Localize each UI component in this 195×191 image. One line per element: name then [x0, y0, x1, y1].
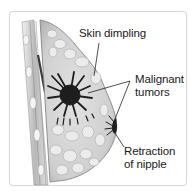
label-malignant-tumors: Malignant tumors — [135, 73, 184, 99]
label-retraction-line1: Retraction — [124, 145, 175, 158]
label-retraction-line2: of nipple — [124, 158, 175, 171]
leader-malignant-nipple — [113, 81, 130, 124]
label-retraction-of-nipple: Retraction of nipple — [124, 145, 175, 171]
label-malignant-line2: tumors — [135, 86, 184, 99]
label-skin-dimpling-text: Skin dimpling — [79, 27, 146, 39]
label-malignant-line1: Malignant — [135, 73, 184, 86]
label-skin-dimpling: Skin dimpling — [79, 27, 146, 40]
